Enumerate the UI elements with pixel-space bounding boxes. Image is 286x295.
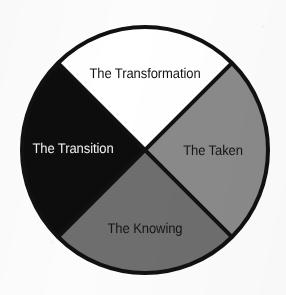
- segment-label-transformation: The Transformation: [89, 65, 200, 81]
- segment-label-transition: The Transition: [32, 140, 113, 156]
- segment-label-taken: The Taken: [183, 142, 243, 158]
- diagram-page: The Transformation The Taken The Knowing…: [0, 0, 286, 295]
- segment-label-knowing: The Knowing: [108, 220, 183, 236]
